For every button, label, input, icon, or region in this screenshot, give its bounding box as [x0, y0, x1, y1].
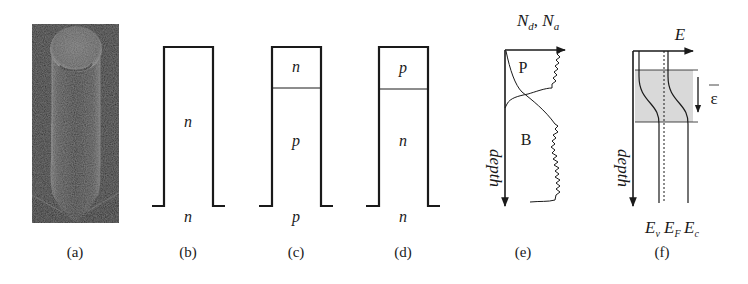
curve-label-p: P [519, 59, 528, 76]
band-label-ef: EF [663, 218, 681, 239]
boron-profile [506, 51, 560, 202]
panel-label-a: (a) [67, 244, 84, 261]
sem-image [32, 24, 119, 223]
panel-a: (a) [32, 24, 119, 261]
pillar-region-label: n [184, 113, 192, 130]
substrate-label: n [184, 208, 192, 225]
panel-label-f: (f) [655, 244, 670, 261]
panel-label-d: (d) [394, 244, 412, 261]
panel-label-b: (b) [179, 244, 197, 261]
band-label-ec: Ec [683, 218, 699, 239]
substrate-label: n [399, 208, 407, 225]
panel-d: p n n (d) [366, 47, 440, 261]
x-axis-label: E [674, 25, 686, 44]
band-label-ev: Ev [644, 218, 660, 239]
bottom-region-label: p [291, 132, 300, 150]
bottom-region-label: n [399, 132, 407, 149]
panel-label-c: (c) [288, 244, 305, 261]
panel-label-e: (e) [515, 244, 532, 261]
figure: (a) n n (b) n p p (c) p n n (d) Nd, Na P [0, 0, 748, 284]
panel-b: n n (b) [152, 47, 225, 261]
y-axis-label: depth [614, 149, 633, 187]
panel-f: ε E depth Ev EF Ec (f) [614, 25, 719, 261]
curve-label-b: B [521, 131, 532, 148]
panel-c: n p p (c) [259, 47, 333, 261]
phosphorus-profile [505, 51, 561, 108]
substrate-label: p [291, 208, 300, 226]
field-label: ε [710, 89, 717, 108]
panel-e: Nd, Na P B depth (e) [486, 11, 565, 261]
top-region-label: p [398, 59, 407, 77]
y-axis-label: depth [486, 149, 505, 187]
x-axis-label: Nd, Na [516, 11, 560, 32]
top-region-label: n [292, 58, 300, 75]
